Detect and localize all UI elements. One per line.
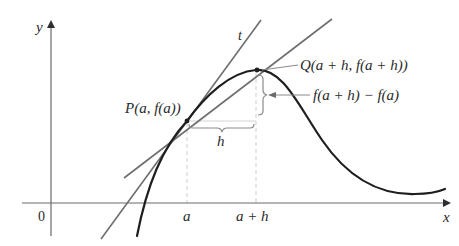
point-q xyxy=(255,68,260,73)
h-brace xyxy=(189,124,254,132)
rise-brace xyxy=(258,75,267,115)
tick-label-a-plus-h: a + h xyxy=(236,208,269,224)
rise-arrow-icon xyxy=(268,92,276,98)
point-q-label: Q(a + h, f(a + h)) xyxy=(300,57,408,74)
point-p-label: P(a, f(a)) xyxy=(124,100,181,117)
tangent-label: t xyxy=(238,28,243,43)
tick-label-a: a xyxy=(183,208,191,224)
point-p xyxy=(185,119,190,124)
derivative-diagram: y x 0 a a + h t P(a, f(a)) Q(a + h, f(a … xyxy=(0,0,459,246)
rise-label: f(a + h) − f(a) xyxy=(313,87,399,104)
y-axis-label: y xyxy=(34,19,43,35)
x-axis-label: x xyxy=(442,209,450,225)
h-label: h xyxy=(217,133,225,149)
origin-label: 0 xyxy=(38,209,45,224)
secant-line xyxy=(124,19,332,178)
